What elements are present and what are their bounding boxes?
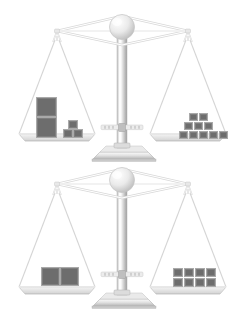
top-base: [92, 146, 156, 161]
bottom-left-strings: [19, 189, 95, 287]
bottom-pivot-knob: [110, 168, 135, 193]
top-left-strings: [19, 36, 95, 134]
bottom-pointer-bar: [101, 271, 143, 279]
top-right-strings: [150, 36, 226, 134]
bottom-right-strings: [150, 189, 226, 287]
bottom-balance: [0, 165, 248, 331]
top-balance: [0, 0, 248, 166]
top-right-pan: [150, 134, 226, 141]
top-pivot-knob: [110, 15, 135, 40]
balance-scene: [0, 0, 248, 331]
bottom-left-pan: [19, 287, 95, 294]
bottom-base: [92, 293, 156, 308]
top-left-pan: [19, 134, 95, 141]
top-pointer-bar: [101, 124, 143, 132]
bottom-right-pan: [150, 287, 226, 294]
